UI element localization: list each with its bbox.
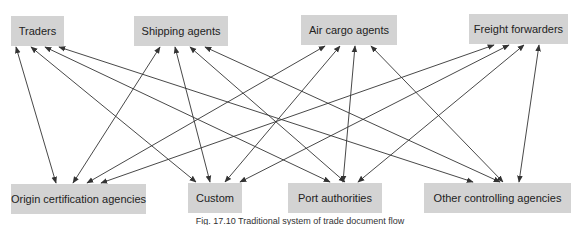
node-label: Other controlling agencies — [434, 192, 562, 204]
node-shipping-agents: Shipping agents — [134, 16, 228, 46]
node-label: Shipping agents — [142, 25, 221, 37]
edge-freight-other — [519, 45, 539, 182]
edge-shipping-custom — [175, 47, 210, 182]
edge-freight-port — [358, 45, 524, 182]
node-port-authorities: Port authorities — [288, 183, 382, 213]
edge-shipping-origin — [73, 47, 160, 183]
node-label: Port authorities — [298, 192, 372, 204]
node-label: Air cargo agents — [309, 24, 389, 36]
document-flow-diagram: Traders Shipping agents Air cargo agents… — [0, 0, 583, 225]
node-origin-certification-agencies: Origin certification agencies — [11, 184, 146, 214]
edge-freight-custom — [240, 45, 509, 182]
figure-caption: Fig. 17.10 Traditional system of trade d… — [150, 216, 450, 225]
edge-traders-other — [59, 47, 473, 182]
node-custom: Custom — [188, 183, 242, 213]
edge-aircargo-port — [343, 46, 355, 182]
node-freight-forwarders: Freight forwarders — [469, 14, 568, 44]
edge-aircargo-other — [371, 46, 503, 182]
node-other-controlling-agencies: Other controlling agencies — [424, 183, 571, 213]
edge-traders-origin — [16, 47, 56, 183]
node-air-cargo-agents: Air cargo agents — [301, 15, 397, 45]
node-label: Freight forwarders — [474, 23, 563, 35]
node-label: Custom — [196, 192, 234, 204]
node-traders: Traders — [11, 16, 64, 46]
edge-traders-custom — [31, 47, 196, 182]
node-label: Origin certification agencies — [11, 193, 146, 205]
edge-shipping-other — [205, 47, 500, 182]
edge-aircargo-custom — [225, 46, 340, 182]
edge-freight-origin — [101, 45, 494, 183]
node-label: Traders — [19, 25, 57, 37]
